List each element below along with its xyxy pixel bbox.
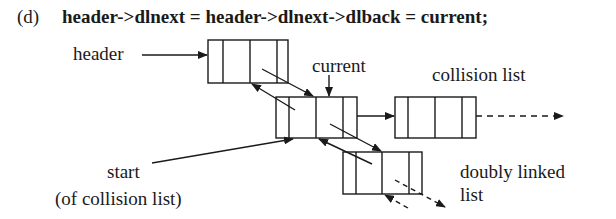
- linked-list-diagram: [0, 0, 616, 219]
- dl-next-node: [343, 152, 422, 194]
- dl-incoming-dlback-arrow: [385, 195, 408, 208]
- doubly-linked-label-2: list: [460, 185, 483, 204]
- collision-list-label: collision list: [432, 65, 525, 84]
- start-pointer-arrow: [152, 139, 293, 163]
- collision-next-node: [395, 97, 476, 138]
- current-label: current: [312, 56, 366, 75]
- header-label: header: [73, 44, 124, 63]
- doubly-linked-label: doubly linked: [460, 162, 565, 181]
- start-label: start: [107, 162, 140, 181]
- start-note-label: (of collision list): [55, 189, 182, 208]
